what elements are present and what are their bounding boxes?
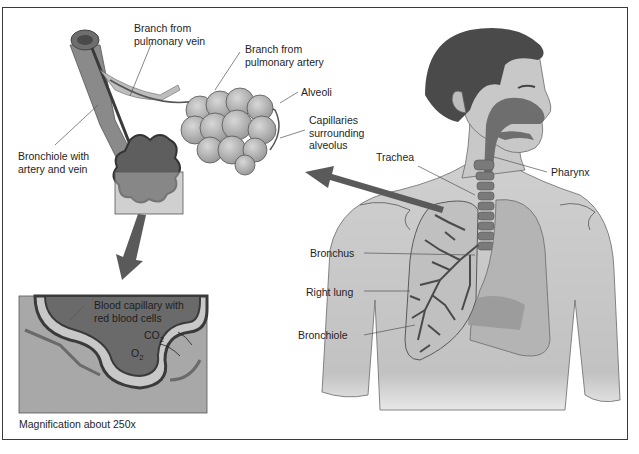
label-right-lung: Right lung — [306, 286, 353, 299]
o2-subscript: 2 — [139, 353, 143, 362]
label-bronchiole: Bronchiole — [298, 329, 348, 342]
label-bronchus: Bronchus — [310, 247, 354, 260]
caption-magnification: Magnification about 250x — [19, 418, 136, 431]
label-branch-pulmonary-vein: Branch from pulmonary vein — [134, 22, 205, 47]
label-blood-capillary: Blood capillary with red blood cells — [94, 299, 184, 324]
label-o2: O2 — [131, 347, 143, 365]
label-alveoli: Alveoli — [301, 86, 332, 99]
co2-text: CO — [144, 329, 160, 341]
respiratory-illustration — [0, 0, 639, 454]
human-torso — [322, 28, 620, 410]
co2-subscript: 2 — [160, 335, 164, 344]
label-pharynx: Pharynx — [551, 166, 590, 179]
label-capillaries-surrounding-alveolus: Capillaries surrounding alveolus — [309, 114, 364, 152]
label-trachea: Trachea — [376, 151, 414, 164]
o2-text: O — [131, 347, 139, 359]
label-branch-pulmonary-artery: Branch from pulmonary artery — [245, 43, 324, 68]
label-bronchiole-with-artery-vein: Bronchiole with artery and vein — [18, 150, 89, 175]
label-co2: CO2 — [144, 329, 164, 347]
arrow-to-magnified-view — [116, 214, 146, 280]
